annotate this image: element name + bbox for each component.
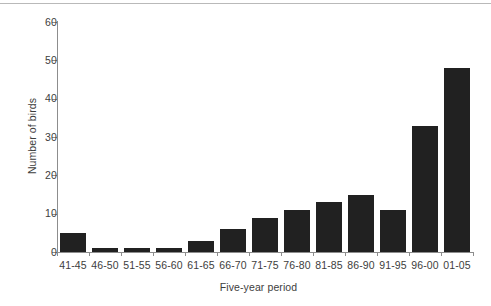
bar (220, 229, 246, 252)
y-axis-tick-label: 60 (11, 17, 57, 28)
bar-chart-figure: 0102030405060 41-4546-5051-5556-6061-656… (0, 0, 491, 306)
bar (348, 195, 374, 253)
bar (316, 202, 342, 252)
bar (124, 248, 150, 252)
x-axis-line (57, 252, 474, 253)
y-axis-tick-label-wrap: 60 (0, 17, 57, 28)
bar (60, 233, 86, 252)
bar (444, 68, 470, 252)
x-axis-tick-mark (121, 252, 122, 256)
x-axis-tick-label: 01-05 (437, 259, 477, 271)
x-axis-tick-mark (153, 252, 154, 256)
x-axis-tick-mark (185, 252, 186, 256)
x-axis-tick-mark (313, 252, 314, 256)
bar (156, 248, 182, 252)
x-axis-tick-mark (345, 252, 346, 256)
bar (284, 210, 310, 252)
bar (188, 241, 214, 253)
x-axis-tick-mark (409, 252, 410, 256)
x-axis-tick-mark (281, 252, 282, 256)
x-axis-title-text: Five-year period (220, 281, 297, 293)
bar (92, 248, 118, 252)
x-axis-tick-mark (217, 252, 218, 256)
x-axis-tick-mark (57, 252, 58, 256)
x-axis-tick-mark (473, 252, 474, 256)
x-axis-tick-mark (377, 252, 378, 256)
y-axis-tick-label-wrap: 0 (0, 247, 57, 258)
x-axis-tick-mark (89, 252, 90, 256)
y-axis-tick-label: 0 (11, 247, 57, 258)
x-axis-tick-mark (249, 252, 250, 256)
y-axis-line (57, 21, 58, 253)
bar (412, 126, 438, 253)
plot-area: 0102030405060 41-4546-5051-5556-6061-656… (0, 0, 491, 306)
bar (380, 210, 406, 252)
x-axis-tick-mark (441, 252, 442, 256)
y-axis-title: Number of birds (26, 56, 38, 216)
x-axis-title: Five-year period (0, 281, 491, 293)
bar (252, 218, 278, 253)
